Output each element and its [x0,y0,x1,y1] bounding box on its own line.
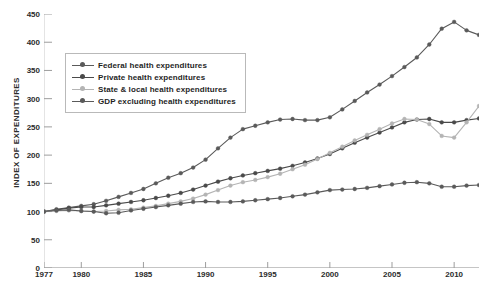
legend-item[interactable]: State & local health expenditures [72,83,236,95]
data-point [340,188,344,192]
data-point [390,74,394,78]
data-point [266,197,270,201]
data-point [316,157,320,161]
data-point [440,185,444,189]
data-point [204,193,208,197]
data-point [365,133,369,137]
data-point [104,203,108,207]
data-point [328,151,332,155]
y-tick-label: 50 [14,235,40,244]
x-tick-label: 2010 [445,270,463,279]
y-tick-label: 250 [14,122,40,131]
data-point [415,180,419,184]
data-point [340,145,344,149]
data-point [241,180,245,184]
legend-item[interactable]: Private health expenditures [72,71,236,83]
data-point [477,104,479,108]
data-point [79,209,83,213]
legend-label: Private health expenditures [94,73,205,82]
data-point [117,211,121,215]
y-tick-label: 400 [14,38,40,47]
data-point [216,146,220,150]
y-tick-label: 200 [14,151,40,160]
data-point [291,117,295,121]
data-point [390,183,394,187]
data-point [477,33,479,37]
data-point [266,175,270,179]
series-line [44,118,479,211]
data-point [440,120,444,124]
legend-marker-icon [72,60,94,70]
data-point [278,196,282,200]
data-point [229,184,233,188]
legend-item[interactable]: Federal health expenditures [72,59,236,71]
data-point [353,187,357,191]
data-point [142,198,146,202]
y-tick-label: 150 [14,179,40,188]
data-point [427,43,431,47]
x-tick-label: 2000 [321,270,339,279]
data-point [229,136,233,140]
data-point [104,211,108,215]
data-point [191,166,195,170]
data-point [92,205,96,209]
data-point [427,122,431,126]
x-tick-label: 1990 [197,270,215,279]
data-point [427,117,431,121]
data-point [241,199,245,203]
x-tick-label: 1995 [259,270,277,279]
data-point [415,118,419,122]
data-point [191,188,195,192]
data-point [365,91,369,95]
y-tick-label: 100 [14,207,40,216]
data-point [477,183,479,187]
y-tick-label: 350 [14,66,40,75]
data-point [303,193,307,197]
data-point [253,171,257,175]
data-point [154,196,158,200]
data-point [328,188,332,192]
data-point [216,200,220,204]
data-point [216,188,220,192]
legend-marker-icon [72,84,94,94]
data-point [166,176,170,180]
data-point [465,120,469,124]
data-point [291,167,295,171]
data-point [452,185,456,189]
data-point [378,127,382,131]
data-point [92,210,96,214]
data-point [278,118,282,122]
data-point [204,184,208,188]
data-point [229,176,233,180]
legend-label: State & local health expenditures [94,85,227,94]
y-axis-tick-labels: 050100150200250300350400450 [10,14,40,268]
data-point [253,178,257,182]
data-point [79,205,83,209]
series-1 [44,117,479,214]
x-axis-tick-labels: 19771980198519901995200020052010 [44,270,479,286]
data-point [142,187,146,191]
y-tick-label: 450 [14,10,40,19]
legend-marker-icon [72,96,94,106]
data-point [440,134,444,138]
series-line [44,106,479,212]
data-point [216,180,220,184]
data-point [179,171,183,175]
data-point [353,99,357,103]
data-point [241,127,245,131]
data-point [427,181,431,185]
data-point [104,199,108,203]
data-point [316,118,320,122]
data-point [44,210,46,214]
data-point [378,184,382,188]
x-tick-label: 1980 [72,270,90,279]
data-point [142,207,146,211]
data-point [204,158,208,162]
data-point [353,139,357,143]
x-tick-label: 2005 [383,270,401,279]
legend-label: GDP excluding health expenditures [94,97,236,106]
data-point [465,184,469,188]
data-point [229,200,233,204]
legend-item[interactable]: GDP excluding health expenditures [72,95,236,107]
data-point [316,190,320,194]
